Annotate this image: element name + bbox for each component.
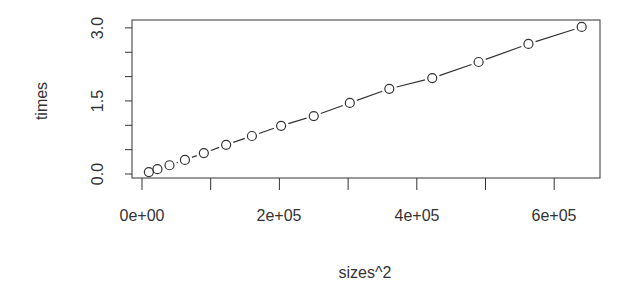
data-series: [144, 22, 586, 176]
data-point: [345, 98, 354, 107]
line-segment: [357, 91, 382, 100]
data-point: [144, 168, 153, 177]
y-axis: [125, 28, 132, 174]
data-point: [524, 39, 533, 48]
line-segment: [439, 64, 471, 75]
data-point: [309, 112, 318, 121]
y-tick-label-3: 3.0: [89, 17, 106, 39]
data-point: [428, 74, 437, 83]
line-segment: [192, 156, 197, 158]
data-point: [180, 155, 189, 164]
data-point: [277, 121, 286, 130]
chart: 0.0 1.5 3.0 0e+00 2e+05 4e+05 6e+05 size…: [0, 0, 629, 289]
x-tick-label-0: 0e+00: [120, 207, 165, 224]
line-segment: [486, 47, 522, 60]
data-point: [199, 149, 208, 158]
data-point: [165, 161, 174, 170]
x-tick-label-4e5: 4e+05: [395, 207, 440, 224]
x-tick-label-2e5: 2e+05: [257, 207, 302, 224]
data-point: [385, 84, 394, 93]
line-segment: [397, 80, 425, 87]
y-axis-title: times: [33, 82, 50, 120]
line-segment: [259, 128, 274, 133]
y-tick-label-0: 0.0: [89, 163, 106, 185]
line-segment: [321, 105, 343, 113]
x-axis: [142, 178, 554, 190]
plot-box: [132, 20, 600, 178]
data-point: [247, 132, 256, 141]
line-segment: [288, 118, 306, 123]
y-tick-label-1.5: 1.5: [89, 90, 106, 112]
x-axis-title: sizes^2: [339, 264, 392, 281]
data-point: [153, 165, 162, 174]
line-segment: [233, 138, 245, 142]
data-point: [222, 140, 231, 149]
line-segment: [536, 29, 575, 41]
data-point: [474, 57, 483, 66]
line-segment: [211, 147, 219, 150]
data-point: [577, 22, 586, 31]
x-tick-label-6e5: 6e+05: [532, 207, 577, 224]
